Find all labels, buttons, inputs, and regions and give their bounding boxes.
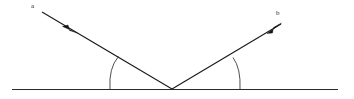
- angle-of-reflection-arc: [233, 58, 240, 90]
- reflection-diagram: a b: [0, 0, 354, 99]
- incident-ray-label: a: [31, 3, 34, 10]
- reflected-ray-arrowhead-icon: [267, 23, 282, 34]
- angle-of-incidence-arc: [110, 57, 119, 90]
- incident-ray-line: [42, 12, 172, 89]
- reflected-ray-label: b: [276, 10, 280, 17]
- reflected-ray-line: [172, 24, 281, 89]
- reflection-diagram-svg: [0, 0, 354, 99]
